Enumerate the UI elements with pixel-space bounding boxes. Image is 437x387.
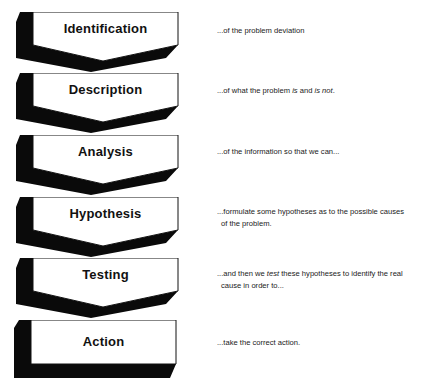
- step-label: Testing: [33, 267, 178, 282]
- description-emphasis: is not: [315, 86, 333, 95]
- description-text: ...of what the problem: [217, 86, 292, 95]
- step-description-action: ...take the correct action.: [217, 337, 432, 349]
- step-description: Description: [0, 73, 200, 135]
- step-testing: Testing: [0, 258, 200, 320]
- description-text: .: [333, 86, 335, 95]
- problem-solving-process-diagram: Identification ...of the problem deviati…: [0, 0, 437, 387]
- step-description-analysis: ...of the information so that we can...: [217, 146, 432, 158]
- step-description-description: ...of what the problem is and is not.: [217, 85, 432, 97]
- description-text: ...of the information so that we can...: [217, 147, 339, 156]
- step-action: Action: [0, 320, 200, 382]
- step-label: Identification: [33, 21, 178, 36]
- step-description-testing: ...and then we test these hypotheses to …: [217, 268, 432, 292]
- description-text: ...of the problem deviation: [217, 26, 304, 35]
- description-text-continued: of the problem.: [217, 218, 432, 230]
- step-analysis: Analysis: [0, 135, 200, 197]
- description-text: ...and then we: [217, 269, 267, 278]
- description-emphasis: test: [267, 269, 279, 278]
- description-text-continued: cause in order to...: [217, 280, 432, 292]
- step-label: Action: [31, 334, 176, 349]
- step-identification: Identification: [0, 12, 200, 74]
- step-description-identification: ...of the problem deviation: [217, 25, 432, 37]
- step-description-hypothesis: ...formulate some hypotheses as to the p…: [217, 206, 432, 230]
- step-label: Hypothesis: [33, 206, 178, 221]
- description-text: these hypotheses to identify the real: [279, 269, 403, 278]
- step-label: Analysis: [33, 144, 178, 159]
- description-text: ...formulate some hypotheses as to the p…: [217, 207, 404, 216]
- description-text: ...take the correct action.: [217, 338, 300, 347]
- step-label: Description: [33, 82, 178, 97]
- step-hypothesis: Hypothesis: [0, 197, 200, 259]
- description-text: and: [298, 86, 315, 95]
- box-block-shape: [0, 320, 200, 382]
